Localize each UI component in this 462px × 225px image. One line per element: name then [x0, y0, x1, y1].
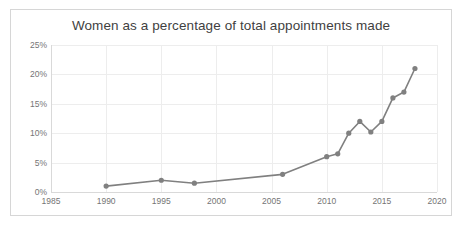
series-line	[106, 69, 415, 187]
data-point-marker: 1990: 1%	[104, 184, 109, 189]
data-point-marker: 2017: 17%	[401, 89, 406, 94]
data-point-marker: 2015: 12%	[379, 119, 384, 124]
chart-figure: Women as a percentage of total appointme…	[0, 0, 462, 225]
data-point-marker: 2011: 6.5%	[335, 151, 340, 156]
series-layer: 1990: 1%1995: 2%1998: 1.5%2006: 3%2010: …	[0, 0, 462, 225]
data-point-marker: 2010: 6%	[324, 154, 329, 159]
data-point-marker: 2012: 10%	[346, 131, 351, 136]
data-point-marker: 2018: 21%	[412, 66, 417, 71]
data-point-marker: 1998: 1.5%	[192, 181, 197, 186]
data-point-marker: 2006: 3%	[280, 172, 285, 177]
data-point-marker: 1995: 2%	[159, 178, 164, 183]
data-point-marker: 2013: 12%	[357, 119, 362, 124]
data-point-marker: 2016: 16%	[390, 95, 395, 100]
data-point-marker: 2014: 10.2%	[368, 129, 373, 134]
